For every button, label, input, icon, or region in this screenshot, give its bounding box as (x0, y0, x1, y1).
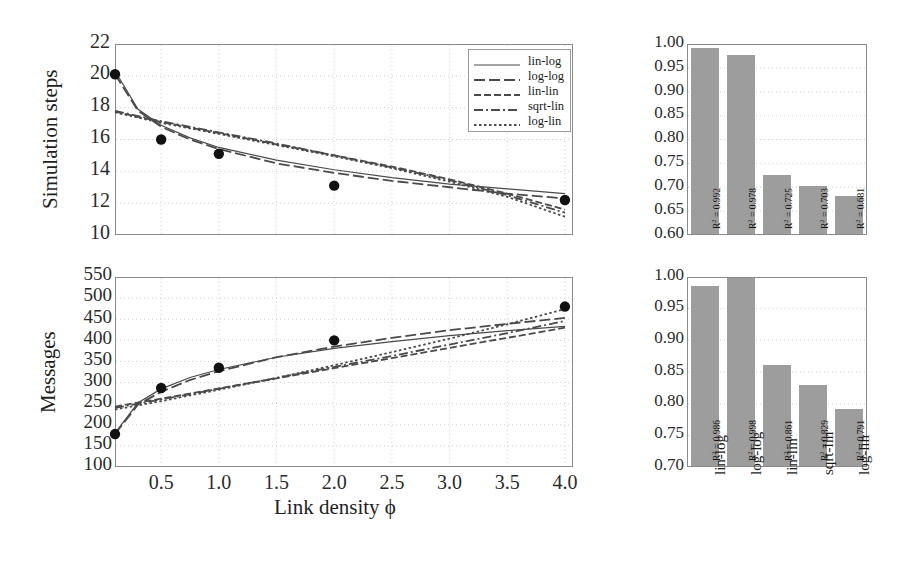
category-label-sqrt-lin: sqrt-lin (820, 432, 837, 475)
grid-bottom-right (0, 0, 909, 563)
category-label-lin-lin: lin-lin (784, 438, 801, 475)
category-label-log-log: log-log (748, 432, 765, 475)
category-label-lin-log: lin-log (712, 435, 729, 475)
category-label-log-lin: log-lin (856, 435, 873, 475)
messages-r2-bar-chart: 1.000.950.900.850.800.750.70 R2 = 0.986R… (0, 0, 909, 563)
